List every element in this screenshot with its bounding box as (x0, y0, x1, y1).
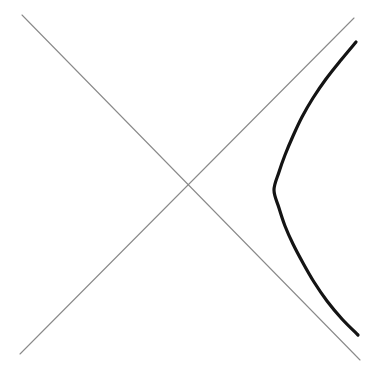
hyperbola-figure (0, 0, 376, 374)
figure-canvas (0, 0, 376, 374)
